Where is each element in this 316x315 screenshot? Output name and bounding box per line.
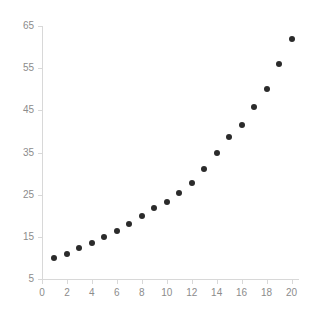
y-axis-line: [42, 26, 43, 280]
data-point: [201, 166, 207, 172]
y-tick-mark: [38, 195, 42, 196]
data-point: [164, 199, 170, 205]
data-point: [101, 234, 107, 240]
y-tick-label: 65: [0, 21, 34, 31]
data-point: [226, 134, 232, 140]
data-point: [276, 61, 282, 67]
x-tick-label: 0: [30, 288, 54, 298]
x-tick-mark: [242, 280, 243, 284]
y-tick-mark: [38, 110, 42, 111]
data-point: [214, 150, 220, 156]
data-point: [139, 213, 145, 219]
y-tick-mark: [38, 237, 42, 238]
scatter-chart-figure: 5152535455565 02468101214161820: [0, 0, 316, 315]
x-tick-label: 16: [230, 288, 254, 298]
y-tick-label: 45: [0, 105, 34, 115]
data-point: [89, 240, 95, 246]
x-tick-mark: [217, 280, 218, 284]
data-point: [114, 228, 120, 234]
y-tick-mark: [38, 68, 42, 69]
data-point: [264, 86, 270, 92]
x-axis-line: [42, 279, 299, 280]
x-tick-mark: [67, 280, 68, 284]
data-point: [289, 36, 295, 42]
y-tick-label: 25: [0, 190, 34, 200]
plot-area: 5152535455565 02468101214161820: [0, 0, 316, 315]
x-tick-mark: [42, 280, 43, 284]
x-tick-label: 4: [80, 288, 104, 298]
x-tick-label: 14: [205, 288, 229, 298]
x-tick-label: 12: [180, 288, 204, 298]
data-point: [251, 104, 257, 110]
y-tick-mark: [38, 26, 42, 27]
y-tick-mark: [38, 153, 42, 154]
data-point: [151, 205, 157, 211]
x-tick-label: 2: [55, 288, 79, 298]
data-point: [176, 190, 182, 196]
data-point: [126, 221, 132, 227]
x-tick-mark: [142, 280, 143, 284]
x-tick-label: 10: [155, 288, 179, 298]
y-tick-label: 35: [0, 148, 34, 158]
data-point: [239, 122, 245, 128]
x-tick-label: 6: [105, 288, 129, 298]
y-tick-label: 5: [0, 274, 34, 284]
x-tick-label: 8: [130, 288, 154, 298]
x-tick-label: 20: [280, 288, 304, 298]
x-tick-label: 18: [255, 288, 279, 298]
x-tick-mark: [192, 280, 193, 284]
data-point: [51, 255, 57, 261]
data-point: [76, 245, 82, 251]
x-tick-mark: [267, 280, 268, 284]
y-tick-label: 15: [0, 232, 34, 242]
x-tick-mark: [92, 280, 93, 284]
x-tick-mark: [292, 280, 293, 284]
data-point: [189, 180, 195, 186]
y-tick-label: 55: [0, 63, 34, 73]
x-tick-mark: [167, 280, 168, 284]
data-point: [64, 251, 70, 257]
x-tick-mark: [117, 280, 118, 284]
